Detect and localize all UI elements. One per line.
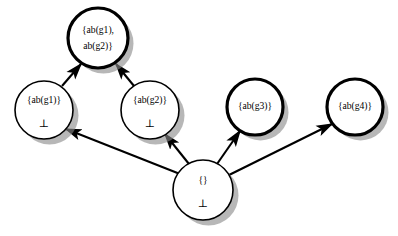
node-ab-g1-circle[interactable] [15,81,73,139]
node-ab-g2[interactable]: {ab(g2)}⊥ [121,81,179,139]
node-ab-g3[interactable]: {ab(g3)} [227,79,283,135]
node-ab-g1-label-line1: {ab(g1)} [27,94,61,106]
node-empty-set-bottom-symbol: ⊥ [198,197,208,209]
node-ab-g1-ab-g2-circle[interactable] [68,8,128,68]
node-ab-g1-ab-g2[interactable]: {ab(g1),ab(g2)} [68,8,128,68]
node-empty-set[interactable]: {}⊥ [173,160,233,220]
node-ab-g1-ab-g2-label-line1: {ab(g1), [82,24,114,36]
nodes-layer: {ab(g1),ab(g2)}{ab(g1)}⊥{ab(g2)}⊥{ab(g3)… [15,8,383,220]
edge-g1-to-top [62,64,81,86]
node-empty-set-label-line1: {} [198,174,207,185]
lattice-graph: {ab(g1),ab(g2)}{ab(g1)}⊥{ab(g2)}⊥{ab(g3)… [0,0,398,236]
node-ab-g1[interactable]: {ab(g1)}⊥ [15,81,73,139]
node-empty-set-circle[interactable] [173,160,233,220]
node-ab-g4-label-line1: {ab(g4)} [338,100,372,112]
node-ab-g4[interactable]: {ab(g4)} [327,79,383,135]
diagram-canvas: {ab(g1),ab(g2)}{ab(g1)}⊥{ab(g2)}⊥{ab(g3)… [0,0,398,236]
edges-layer [62,64,332,176]
node-ab-g1-bottom-symbol: ⊥ [39,117,49,129]
node-ab-g2-circle[interactable] [121,81,179,139]
node-ab-g2-bottom-symbol: ⊥ [145,117,155,129]
edge-empty-to-g3 [217,131,240,164]
node-ab-g1-ab-g2-label-line2: ab(g2)} [83,40,113,52]
node-ab-g2-label-line1: {ab(g2)} [133,94,167,106]
node-ab-g3-label-line1: {ab(g3)} [238,100,272,112]
